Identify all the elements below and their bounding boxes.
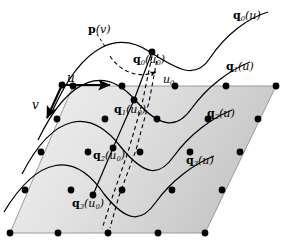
bezier-patch-figure: p(v) q0(u) q1(u) q2(u) q3(u) q0(u0) q1(u… bbox=[0, 0, 285, 249]
control-point-2-2 bbox=[137, 149, 144, 156]
control-point-4-3 bbox=[155, 230, 162, 237]
control-point-0-4 bbox=[273, 83, 280, 90]
label-q2-of-u: q2(u) bbox=[207, 108, 235, 120]
control-point-1-2 bbox=[154, 116, 161, 123]
control-point-3-0 bbox=[22, 187, 29, 194]
control-point-1-4 bbox=[255, 116, 262, 123]
control-point-0-1 bbox=[119, 83, 126, 90]
control-point-0-3 bbox=[223, 83, 230, 90]
control-point-1-0 bbox=[54, 116, 61, 123]
label-v-axis: v bbox=[32, 99, 39, 111]
label-u-axis: u bbox=[67, 72, 75, 84]
origin-control-point bbox=[59, 82, 66, 89]
label-q0-of-u0: q0(u0) bbox=[133, 54, 165, 66]
control-point-1-1 bbox=[102, 116, 109, 123]
control-point-3-2 bbox=[119, 187, 126, 194]
control-point-4-4 bbox=[202, 230, 209, 237]
v-direction-arrow bbox=[47, 85, 62, 118]
label-u0-parameter: u0 bbox=[163, 74, 174, 86]
control-point-4-1 bbox=[55, 230, 62, 237]
label-q0-of-u: q0(u) bbox=[233, 10, 261, 22]
label-q1-of-u: q1(u) bbox=[226, 61, 254, 73]
control-point-4-2 bbox=[105, 230, 112, 237]
control-point-2-4 bbox=[237, 149, 244, 156]
control-point-2-0 bbox=[38, 149, 45, 156]
control-point-3-3 bbox=[169, 187, 176, 194]
label-q1-of-u0: q1(u0) bbox=[114, 104, 146, 116]
label-q3-of-u: q3(u) bbox=[186, 155, 214, 167]
diagram-canvas bbox=[0, 0, 285, 249]
label-q3-of-u0: q3(u0) bbox=[72, 198, 104, 210]
control-point-3-4 bbox=[219, 187, 226, 194]
label-p-of-v: p(v) bbox=[88, 24, 111, 35]
label-q2-of-u0: q2(u0) bbox=[93, 150, 125, 162]
p-v-leader-line bbox=[97, 34, 106, 48]
control-point-4-0 bbox=[7, 230, 14, 237]
control-point-2-1 bbox=[85, 149, 92, 156]
control-point-3-1 bbox=[68, 187, 75, 194]
